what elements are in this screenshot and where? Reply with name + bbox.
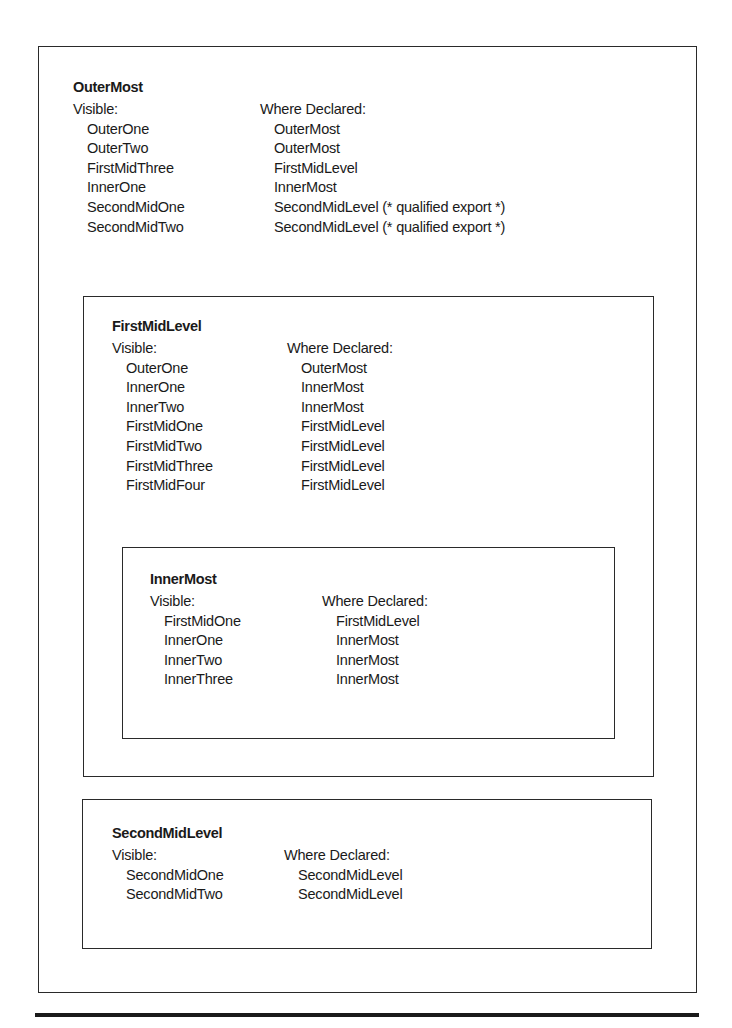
second-mid-level-declared-column: Where Declared: SecondMidLevel SecondMid… [284, 846, 402, 905]
second-mid-level-visible-column: Visible: SecondMidOne SecondMidTwo [112, 846, 224, 905]
first-mid-level-visible-column: Visible: OuterOne InnerOne InnerTwo Firs… [112, 339, 213, 496]
first-mid-level-title: FirstMidLevel [112, 317, 202, 335]
outermost-visible-item: FirstMidThree [73, 159, 185, 179]
outermost-declared-item: SecondMidLevel (* qualified export *) [260, 198, 505, 218]
first-mid-level-declared-item: FirstMidLevel [287, 476, 393, 496]
first-mid-level-declared-column: Where Declared: OuterMost InnerMost Inne… [287, 339, 393, 496]
first-mid-level-visible-item: FirstMidOne [112, 417, 213, 437]
first-mid-level-visible-item: InnerOne [112, 378, 213, 398]
first-mid-level-visible-header: Visible: [112, 339, 213, 359]
first-mid-level-declared-header: Where Declared: [287, 339, 393, 359]
first-mid-level-declared-item: OuterMost [287, 359, 393, 379]
second-mid-level-declared-item: SecondMidLevel [284, 866, 402, 886]
first-mid-level-visible-item: FirstMidFour [112, 476, 213, 496]
outermost-declared-item: FirstMidLevel [260, 159, 505, 179]
inner-most-visible-item: InnerThree [150, 670, 241, 690]
first-mid-level-declared-item: InnerMost [287, 398, 393, 418]
inner-most-visible-item: InnerTwo [150, 651, 241, 671]
inner-most-visible-column: Visible: FirstMidOne InnerOne InnerTwo I… [150, 592, 241, 690]
outermost-visible-item: InnerOne [73, 178, 185, 198]
outermost-declared-item: SecondMidLevel (* qualified export *) [260, 218, 505, 238]
second-mid-level-visible-header: Visible: [112, 846, 224, 866]
inner-most-title: InnerMost [150, 570, 217, 588]
outermost-visible-column: Visible: OuterOne OuterTwo FirstMidThree… [73, 100, 185, 237]
first-mid-level-declared-item: FirstMidLevel [287, 457, 393, 477]
inner-most-declared-header: Where Declared: [322, 592, 428, 612]
figure-bottom-rule [35, 1013, 699, 1017]
outermost-visible-item: SecondMidOne [73, 198, 185, 218]
second-mid-level-visible-item: SecondMidTwo [112, 885, 224, 905]
outermost-declared-item: OuterMost [260, 139, 505, 159]
first-mid-level-visible-item: InnerTwo [112, 398, 213, 418]
outermost-declared-item: InnerMost [260, 178, 505, 198]
second-mid-level-visible-item: SecondMidOne [112, 866, 224, 886]
first-mid-level-declared-item: InnerMost [287, 378, 393, 398]
outermost-declared-column: Where Declared: OuterMost OuterMost Firs… [260, 100, 505, 237]
first-mid-level-visible-item: FirstMidThree [112, 457, 213, 477]
inner-most-declared-item: InnerMost [322, 631, 428, 651]
inner-most-declared-item: FirstMidLevel [322, 612, 428, 632]
outermost-visible-item: SecondMidTwo [73, 218, 185, 238]
inner-most-visible-header: Visible: [150, 592, 241, 612]
inner-most-visible-item: FirstMidOne [150, 612, 241, 632]
second-mid-level-title: SecondMidLevel [112, 824, 222, 842]
first-mid-level-declared-item: FirstMidLevel [287, 437, 393, 457]
outermost-visible-header: Visible: [73, 100, 185, 120]
outermost-title: OuterMost [73, 78, 143, 96]
outermost-visible-item: OuterOne [73, 120, 185, 140]
outermost-declared-header: Where Declared: [260, 100, 505, 120]
inner-most-declared-item: InnerMost [322, 670, 428, 690]
inner-most-declared-item: InnerMost [322, 651, 428, 671]
inner-most-visible-item: InnerOne [150, 631, 241, 651]
inner-most-declared-column: Where Declared: FirstMidLevel InnerMost … [322, 592, 428, 690]
second-mid-level-declared-item: SecondMidLevel [284, 885, 402, 905]
outermost-declared-item: OuterMost [260, 120, 505, 140]
first-mid-level-visible-item: FirstMidTwo [112, 437, 213, 457]
first-mid-level-declared-item: FirstMidLevel [287, 417, 393, 437]
second-mid-level-declared-header: Where Declared: [284, 846, 402, 866]
outermost-visible-item: OuterTwo [73, 139, 185, 159]
first-mid-level-visible-item: OuterOne [112, 359, 213, 379]
